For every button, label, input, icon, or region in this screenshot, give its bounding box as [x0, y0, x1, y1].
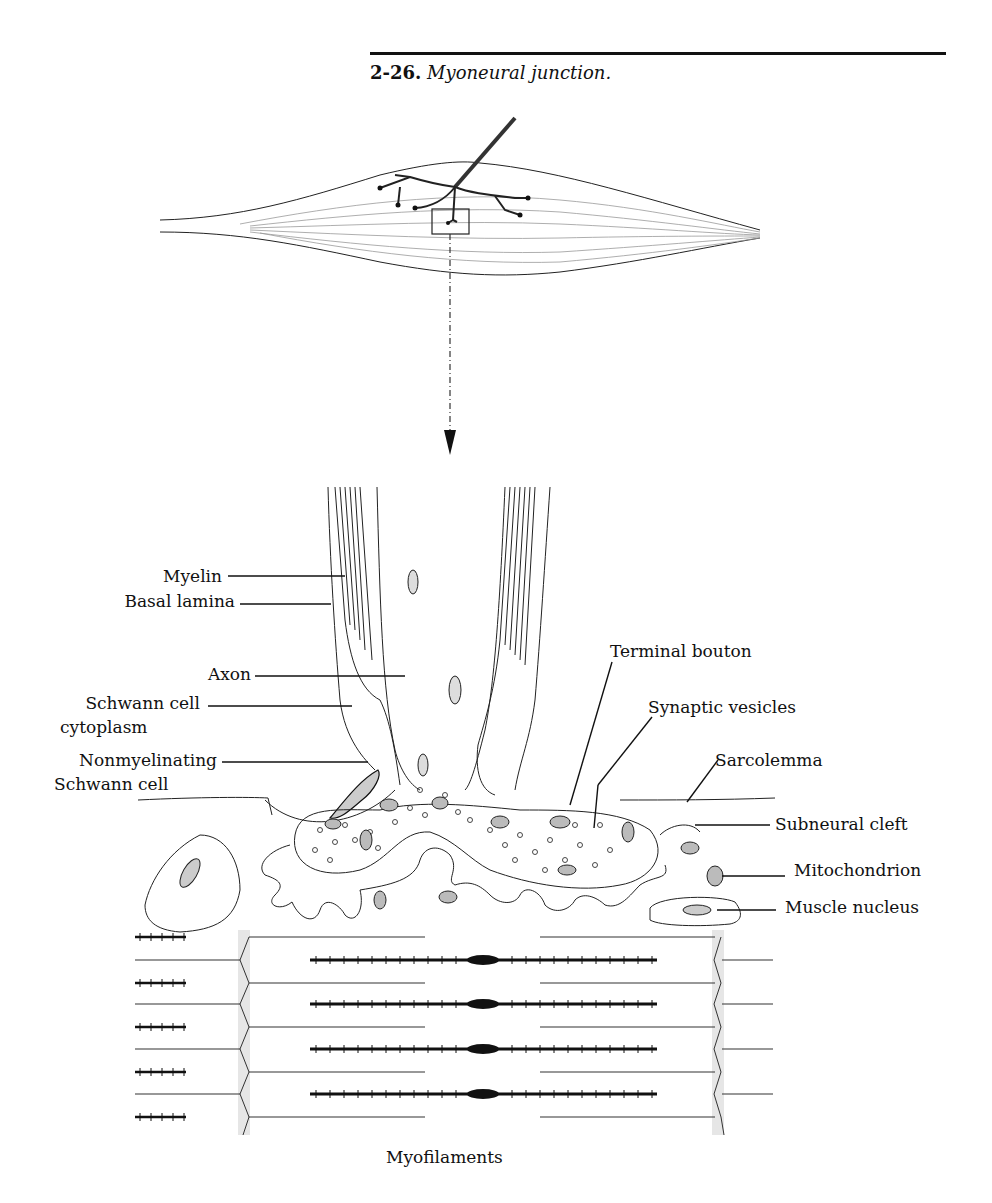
axon-membrane-right — [465, 487, 505, 790]
label-subneural-cleft: Subneural cleft — [775, 814, 908, 834]
sarcolemma-left — [138, 797, 272, 815]
label-myofilaments: Myofilaments — [386, 1147, 503, 1167]
mitochondrion — [374, 891, 386, 909]
label-synaptic-vesicles: Synaptic vesicles — [648, 697, 796, 717]
muscle-outline-bottom — [160, 232, 760, 275]
zoom-arrow-icon — [444, 430, 456, 455]
label-sarcolemma: Sarcolemma — [715, 750, 823, 770]
axon-membrane-left — [377, 487, 420, 790]
muscle-outline-top — [160, 162, 760, 230]
m-line-bulge — [467, 999, 499, 1009]
label-axon: Axon — [207, 664, 251, 684]
label-terminal-bouton: Terminal bouton — [610, 641, 752, 661]
myofilaments — [135, 930, 773, 1135]
label-myelin: Myelin — [163, 566, 222, 586]
label-nonmyelinating-1: Nonmyelinating — [79, 750, 217, 770]
muscle-cell-outline-left — [145, 835, 240, 932]
label-mitochondrion: Mitochondrion — [794, 860, 921, 880]
muscle-overview — [160, 118, 760, 455]
label-schwann-cytoplasm-2: cytoplasm — [60, 717, 148, 737]
basal-lamina-left — [328, 487, 375, 770]
label-nonmyelinating-2: Schwann cell — [54, 774, 169, 794]
m-line-bulge — [467, 1089, 499, 1099]
axon-section — [265, 487, 550, 822]
muscle-nucleus-left — [176, 856, 204, 891]
axon-mitochondrion — [418, 754, 428, 776]
axon-mitochondrion — [449, 676, 461, 704]
schwann-nucleus — [330, 770, 379, 818]
sarcolemma-right — [620, 798, 775, 800]
leader-lines — [208, 576, 785, 910]
m-line-bulge — [467, 1044, 499, 1054]
mitochondrion — [439, 891, 457, 903]
nerve-branches — [380, 175, 528, 223]
myoneural-junction-diagram: Myelin Basal lamina Axon Schwann cell cy… — [0, 0, 992, 1203]
muscle-nucleus — [683, 905, 711, 915]
axon-mitochondrion — [408, 570, 418, 594]
schwann-cell-outline — [265, 790, 395, 822]
label-schwann-cytoplasm-1: Schwann cell — [85, 693, 200, 713]
mitochondrion — [707, 866, 723, 886]
m-line-bulge — [467, 955, 499, 965]
junctional-folds — [262, 825, 700, 919]
mitochondrion — [681, 842, 699, 854]
label-muscle-nucleus: Muscle nucleus — [785, 897, 919, 917]
myelin-left — [335, 487, 400, 785]
myelin-right — [477, 487, 535, 795]
nerve-trunk — [455, 118, 515, 187]
label-basal-lamina: Basal lamina — [124, 591, 235, 611]
